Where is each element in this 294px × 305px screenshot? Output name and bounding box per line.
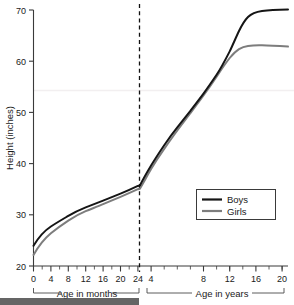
x-tick-label-months: 24 [133, 274, 143, 284]
legend-label-girls: Girls [227, 206, 247, 217]
x-axis-years-tick-labels: 4 8 12 16 20 [149, 274, 288, 284]
x-tick-label-years: 12 [225, 274, 235, 284]
x-axis-months-ticks [34, 266, 138, 272]
x-tick-label-years: 16 [251, 274, 261, 284]
x-tick-label-months: 0 [31, 274, 36, 284]
y-tick-label: 50 [16, 108, 26, 118]
legend-label-boys: Boys [227, 194, 248, 205]
x-tick-label-years: 20 [277, 274, 287, 284]
x-tick-label-years: 4 [149, 274, 154, 284]
months-axis-caption: Age in months [57, 288, 118, 299]
growth-chart-svg: 70 60 50 40 30 20 Height (inches) [0, 0, 294, 305]
x-axis-months-tick-labels: 0 4 8 12 16 20 24 [31, 274, 143, 284]
years-axis-caption: Age in years [196, 288, 249, 299]
y-tick-label: 40 [16, 159, 26, 169]
x-tick-label-months: 16 [98, 274, 108, 284]
y-tick-label: 70 [16, 6, 26, 16]
y-axis-label: Height (inches) [4, 106, 15, 170]
x-tick-label-months: 4 [48, 274, 53, 284]
y-tick-label: 60 [16, 57, 26, 67]
x-tick-label-months: 12 [81, 274, 91, 284]
scan-artifact-bar [0, 298, 139, 305]
growth-chart-figure: 70 60 50 40 30 20 Height (inches) [0, 0, 294, 305]
x-tick-label-months: 8 [66, 274, 71, 284]
y-tick-label: 30 [16, 210, 26, 220]
chart-legend: Boys Girls [197, 190, 276, 220]
x-tick-label-months: 20 [115, 274, 125, 284]
x-tick-label-years: 8 [201, 274, 206, 284]
y-axis-tick-labels: 70 60 50 40 30 20 [16, 6, 26, 272]
y-tick-label: 20 [16, 262, 26, 272]
y-axis-ticks [29, 10, 34, 266]
